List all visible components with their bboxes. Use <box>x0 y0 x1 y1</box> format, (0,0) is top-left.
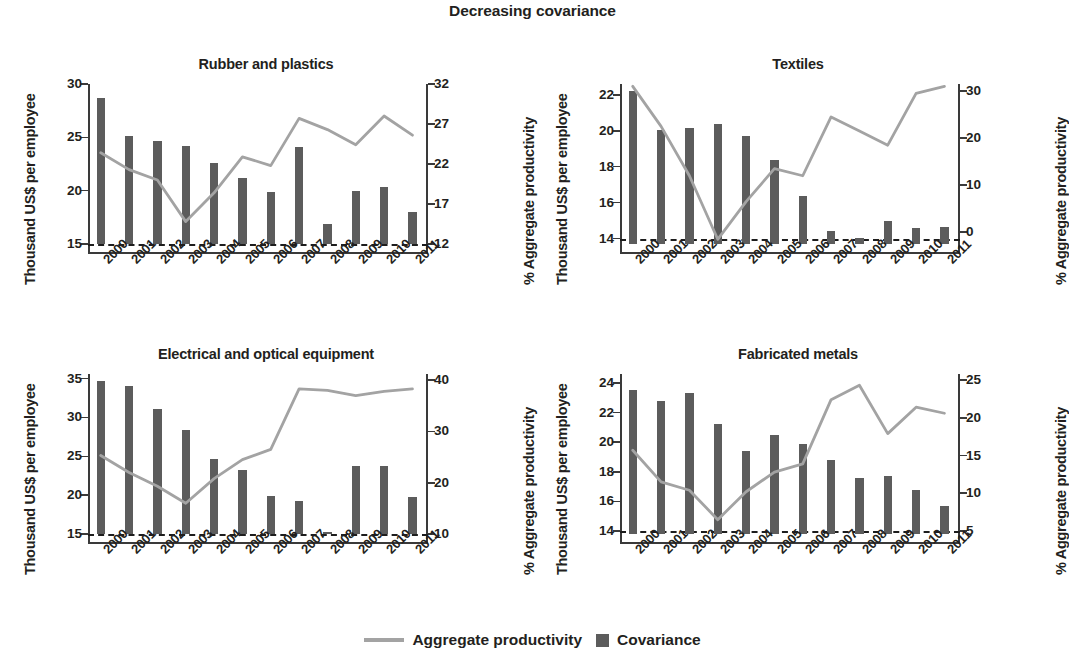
y-tick-left <box>81 533 88 535</box>
plot-area-rubber-and-plastics: 1520253012172227322000200120022003200420… <box>88 84 428 244</box>
y-tick-label-right: 22 <box>434 157 449 171</box>
legend-item-aggregate-productivity: Aggregate productivity <box>364 631 582 649</box>
y-tick-label-left: 25 <box>67 130 82 144</box>
line-marker-icon <box>364 638 404 641</box>
y-tick-label-left: 20 <box>67 184 82 198</box>
y-tick-left <box>81 83 88 85</box>
y-tick-left <box>81 494 88 496</box>
y-tick-label-left: 22 <box>599 88 614 102</box>
y-tick-left <box>613 382 620 384</box>
y-tick-left <box>613 441 620 443</box>
y-tick-label-left: 14 <box>599 232 614 246</box>
y-tick-left <box>613 166 620 168</box>
line-series-aggregate-productivity <box>88 374 428 534</box>
y-axis-label-right: % Aggregate productivity <box>1053 407 1069 575</box>
y-tick-label-right: 20 <box>434 476 449 490</box>
line-series-aggregate-productivity <box>620 374 960 534</box>
y-tick-label-left: 30 <box>67 77 82 91</box>
axis-left-stub <box>620 534 622 544</box>
plot-area-textiles: 1416182022010203020002001200220032004200… <box>620 84 960 244</box>
y-axis-label-left: Thousand US$ per employee <box>22 383 38 575</box>
y-tick-left <box>81 243 88 245</box>
y-tick-left <box>613 412 620 414</box>
y-tick-left <box>613 94 620 96</box>
chart-panel-fabricated-metals: Fabricated metalsThousand US$ per employ… <box>532 330 1065 620</box>
y-tick-label-right: 10 <box>966 486 981 500</box>
y-tick-label-left: 16 <box>599 196 614 210</box>
panel-title: Textiles <box>588 56 1008 72</box>
panel-title: Fabricated metals <box>588 346 1008 362</box>
y-tick-label-left: 20 <box>599 124 614 138</box>
y-tick-label-right: 32 <box>434 77 449 91</box>
y-tick-label-left: 22 <box>599 406 614 420</box>
y-tick-label-left: 18 <box>599 160 614 174</box>
y-tick-left <box>613 471 620 473</box>
panel-title: Rubber and plastics <box>56 56 476 72</box>
y-tick-label-left: 20 <box>67 488 82 502</box>
y-tick-label-left: 15 <box>67 237 82 251</box>
y-tick-label-right: 25 <box>966 373 981 387</box>
y-tick-left <box>81 456 88 458</box>
y-tick-left <box>81 417 88 419</box>
y-tick-label-left: 14 <box>599 524 614 538</box>
y-tick-left <box>81 137 88 139</box>
axis-left-stub <box>620 244 622 254</box>
y-axis-label-left: Thousand US$ per employee <box>22 93 38 285</box>
plot-area-fabricated-metals: 1416182022245101520252000200120022003200… <box>620 374 960 534</box>
x-axis-labels: 2000200120022003200420052006200720082009… <box>620 546 960 626</box>
y-tick-label-right: 20 <box>966 131 981 145</box>
square-marker-icon <box>596 634 609 647</box>
y-tick-left <box>81 190 88 192</box>
y-tick-left <box>613 130 620 132</box>
legend-label: Covariance <box>617 631 701 649</box>
y-tick-label-left: 16 <box>599 494 614 508</box>
panel-title: Electrical and optical equipment <box>56 346 476 362</box>
y-tick-label-right: 10 <box>966 178 981 192</box>
y-axis-label-right: % Aggregate productivity <box>1053 117 1069 285</box>
y-tick-label-right: 27 <box>434 117 449 131</box>
y-tick-left <box>613 530 620 532</box>
figure-legend: Aggregate productivity Covariance <box>0 631 1065 649</box>
y-tick-label-left: 30 <box>67 410 82 424</box>
y-tick-label-right: 15 <box>966 449 981 463</box>
chart-panel-textiles: TextilesThousand US$ per employee% Aggre… <box>532 40 1065 330</box>
x-axis-labels: 2000200120022003200420052006200720082009… <box>88 256 428 336</box>
y-tick-label-right: 17 <box>434 197 449 211</box>
y-tick-label-left: 35 <box>67 372 82 386</box>
line-series-aggregate-productivity <box>88 84 428 244</box>
y-tick-left <box>81 378 88 380</box>
y-tick-label-left: 24 <box>599 376 614 390</box>
y-tick-left <box>613 501 620 503</box>
line-series-aggregate-productivity <box>620 84 960 244</box>
legend-label: Aggregate productivity <box>412 631 582 649</box>
y-tick-label-right: 0 <box>966 225 974 239</box>
y-axis-label-left: Thousand US$ per employee <box>554 383 570 575</box>
legend-item-covariance: Covariance <box>596 631 701 649</box>
x-axis-labels: 2000200120022003200420052006200720082009… <box>88 546 428 626</box>
y-tick-label-left: 15 <box>67 527 82 541</box>
y-tick-label-left: 18 <box>599 465 614 479</box>
y-tick-left <box>613 238 620 240</box>
plot-area-electrical-and-optical-equipment: 1520253035102030402000200120022003200420… <box>88 374 428 534</box>
chart-panel-electrical-and-optical-equipment: Electrical and optical equipmentThousand… <box>0 330 533 620</box>
y-tick-left <box>613 202 620 204</box>
figure-title: Decreasing covariance <box>0 2 1065 20</box>
y-tick-label-left: 20 <box>599 435 614 449</box>
y-tick-label-right: 30 <box>434 424 449 438</box>
y-axis-label-left: Thousand US$ per employee <box>554 93 570 285</box>
y-tick-label-left: 25 <box>67 449 82 463</box>
y-tick-label-right: 40 <box>434 373 449 387</box>
chart-panel-rubber-and-plastics: Rubber and plasticsThousand US$ per empl… <box>0 40 533 330</box>
x-axis-labels: 2000200120022003200420052006200720082009… <box>620 256 960 336</box>
y-tick-label-right: 30 <box>966 84 981 98</box>
y-tick-label-right: 20 <box>966 411 981 425</box>
